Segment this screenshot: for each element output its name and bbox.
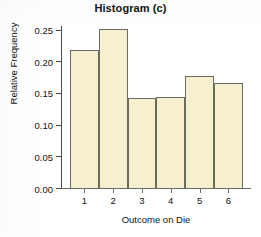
histogram-bar: [185, 76, 214, 188]
x-tick-label: 5: [190, 195, 210, 206]
x-axis-title: Outcome on Die: [61, 214, 251, 225]
histogram-bar: [214, 83, 243, 188]
histogram-bar: [99, 29, 128, 188]
x-tick-label: 4: [161, 195, 181, 206]
y-tick: 0.15: [56, 93, 61, 94]
chart-title: Histogram (c): [0, 2, 261, 14]
x-tick: [113, 189, 114, 193]
y-tick-label: 0.25: [35, 25, 54, 36]
y-tick-label: 0.00: [35, 183, 54, 194]
y-tick: 0.00: [56, 188, 61, 189]
x-axis-line: [61, 188, 251, 189]
histogram-bar: [128, 98, 157, 188]
y-tick-label: 0.05: [35, 151, 54, 162]
x-tick: [200, 189, 201, 193]
y-axis-title: Relative Frequency: [8, 0, 19, 129]
y-tick: 0.05: [56, 156, 61, 157]
y-axis-line: [61, 26, 62, 189]
y-tick-label: 0.20: [35, 56, 54, 67]
x-tick-label: 6: [218, 195, 238, 206]
y-tick: 0.20: [56, 61, 61, 62]
y-tick-label: 0.10: [35, 120, 54, 131]
x-tick-label: 2: [103, 195, 123, 206]
x-tick: [84, 189, 85, 193]
x-tick: [142, 189, 143, 193]
x-tick-label: 3: [132, 195, 152, 206]
histogram-figure: Histogram (c) Relative Frequency Outcome…: [0, 0, 261, 237]
x-tick-label: 1: [74, 195, 94, 206]
histogram-bar: [70, 50, 99, 188]
histogram-bar: [156, 97, 185, 188]
plot-area: 0.000.050.100.150.200.25 123456: [61, 20, 251, 189]
y-tick: 0.10: [56, 125, 61, 126]
x-tick: [228, 189, 229, 193]
x-tick: [171, 189, 172, 193]
y-tick-label: 0.15: [35, 88, 54, 99]
y-tick: 0.25: [56, 30, 61, 31]
